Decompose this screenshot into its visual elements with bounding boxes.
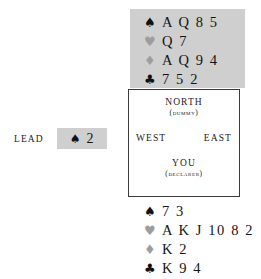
club-icon: ♣ [144, 73, 162, 86]
seat-east: EAST [204, 133, 232, 144]
north-diamond-cards: A Q 9 4 [162, 52, 219, 69]
north-spade-cards: A Q 8 5 [162, 14, 219, 31]
south-hand-panel: ♠ 7 3 ♥ A K J 10 8 2 ♦ K 2 ♣ K 9 4 [130, 198, 255, 277]
south-diamond-row: ♦ K 2 [144, 240, 255, 259]
lead-label: LEAD [14, 134, 44, 144]
lead-card-rank: 2 [87, 131, 94, 147]
south-spade-row: ♠ 7 3 [144, 202, 255, 221]
seat-west: WEST [136, 133, 166, 144]
heart-icon: ♥ [144, 224, 162, 237]
south-club-cards: K 9 4 [162, 260, 202, 277]
south-club-row: ♣ K 9 4 [144, 259, 255, 278]
bridge-deal-diagram: ♠ A Q 8 5 ♥ Q 7 ♦ A Q 9 4 ♣ 7 5 2 NORTH … [0, 0, 261, 279]
north-heart-row: ♥ Q 7 [144, 32, 245, 51]
compass-box: NORTH (DUMMY) WEST EAST YOU (DECLARER) [128, 89, 240, 197]
seat-south-role: (DECLARER) [129, 170, 239, 179]
south-diamond-cards: K 2 [162, 241, 188, 258]
north-club-row: ♣ 7 5 2 [144, 70, 245, 89]
south-heart-cards: A K J 10 8 2 [162, 222, 254, 239]
north-hand-panel: ♠ A Q 8 5 ♥ Q 7 ♦ A Q 9 4 ♣ 7 5 2 [130, 9, 245, 88]
heart-icon: ♥ [144, 35, 162, 48]
diamond-icon: ♦ [144, 243, 162, 256]
north-club-cards: 7 5 2 [162, 71, 199, 88]
spade-icon: ♠ [144, 205, 162, 218]
seat-north-label: NORTH [129, 97, 239, 108]
lead-card: ♠ 2 [57, 128, 107, 149]
north-spade-row: ♠ A Q 8 5 [144, 13, 245, 32]
seat-north-role: (DUMMY) [129, 109, 239, 118]
spade-icon: ♠ [70, 133, 81, 145]
seat-north: NORTH (DUMMY) [129, 97, 239, 118]
seat-west-label: WEST [136, 133, 166, 144]
opening-lead-block: LEAD ♠ 2 [14, 128, 107, 149]
spade-icon: ♠ [144, 16, 162, 29]
north-heart-cards: Q 7 [162, 33, 188, 50]
diamond-icon: ♦ [144, 54, 162, 67]
club-icon: ♣ [144, 262, 162, 275]
seat-south-label: YOU [129, 158, 239, 169]
seat-south: YOU (DECLARER) [129, 158, 239, 179]
south-heart-row: ♥ A K J 10 8 2 [144, 221, 255, 240]
seat-east-label: EAST [204, 133, 232, 144]
north-diamond-row: ♦ A Q 9 4 [144, 51, 245, 70]
south-spade-cards: 7 3 [162, 203, 185, 220]
